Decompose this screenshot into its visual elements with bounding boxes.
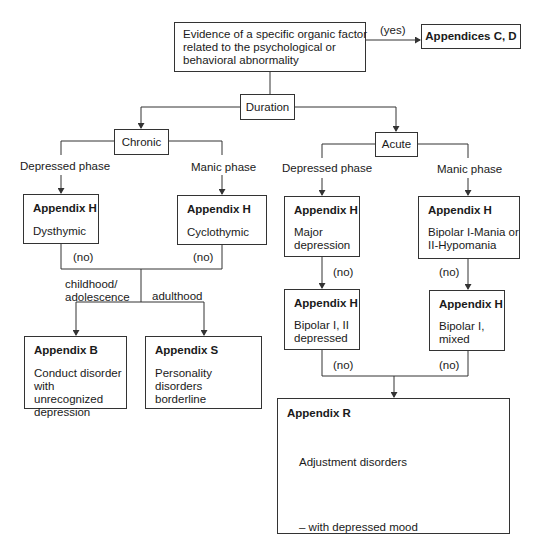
acute-box: Acute <box>375 132 418 157</box>
bipolar-depressed-title: Appendix H <box>294 297 359 310</box>
no-label-bipolar-mixed: (no) <box>439 359 459 372</box>
appendix-r-title: Appendix R <box>287 407 351 420</box>
appendix-b-box: Appendix B Conduct disorder with unrecog… <box>24 336 127 409</box>
acute-label: Acute <box>382 138 411 151</box>
organic-factor-line: related to the psychological or <box>183 41 367 54</box>
dysthymic-box: Appendix H Dysthymic <box>23 194 99 244</box>
bipolar-mania-title: Appendix H <box>428 204 519 217</box>
major-depression-box: Appendix H Major depression <box>284 196 360 257</box>
childhood-label-line: childhood/ <box>65 278 130 291</box>
yes-label: (yes) <box>380 24 406 37</box>
childhood-label-line: adolescence <box>65 291 130 304</box>
appendix-r-item: – with depressed mood <box>299 521 514 533</box>
appendices-cd-title: Appendices C, D <box>425 30 516 43</box>
appendix-b-line: with unrecognized <box>34 380 126 406</box>
bipolar-mixed-line: Bipolar I, <box>439 320 504 333</box>
appendix-s-line: Personality disorders <box>155 367 261 393</box>
dysthymic-body: Dysthymic <box>33 225 98 238</box>
bipolar-mixed-line: mixed <box>439 333 504 346</box>
acute-manic-phase-label: Manic phase <box>437 163 502 176</box>
no-label-major: (no) <box>333 266 353 279</box>
bipolar-mania-line: Bipolar I-Mania or <box>428 226 519 239</box>
chronic-label: Chronic <box>122 136 162 149</box>
chronic-manic-phase-label: Manic phase <box>191 161 256 174</box>
bipolar-mixed-title: Appendix H <box>439 298 504 311</box>
bipolar-mixed-box: Appendix H Bipolar I, mixed <box>429 290 505 351</box>
acute-depressed-phase-label: Depressed phase <box>282 162 372 175</box>
bipolar-depressed-box: Appendix H Bipolar I, II depressed <box>284 289 360 350</box>
chronic-depressed-phase-label: Depressed phase <box>20 160 110 173</box>
bipolar-depressed-line: Bipolar I, II <box>294 319 359 332</box>
appendix-r-items: – with depressed mood – with anxiety – w… <box>299 495 514 551</box>
organic-factor-line: behavioral abnormality <box>183 54 367 67</box>
appendix-s-line: borderline <box>155 393 261 406</box>
bipolar-mania-line: II-Hypomania <box>428 239 519 252</box>
cyclothymic-title: Appendix H <box>187 203 266 216</box>
appendix-b-title: Appendix B <box>34 344 126 357</box>
major-depression-line: depression <box>294 239 359 252</box>
no-label-bipolar-depressed: (no) <box>333 359 353 372</box>
chronic-box: Chronic <box>114 129 169 155</box>
no-label-cyclothymic: (no) <box>193 251 213 264</box>
organic-factor-box: Evidence of a specific organic factor re… <box>174 22 366 72</box>
appendix-r-box: Appendix R Adjustment disorders – with d… <box>277 398 510 534</box>
appendix-r-heading: Adjustment disorders <box>299 456 514 469</box>
cyclothymic-box: Appendix H Cyclothymic <box>177 195 267 245</box>
appendices-cd-box: Appendices C, D <box>421 24 521 49</box>
organic-factor-line: Evidence of a specific organic factor <box>183 28 367 41</box>
appendix-b-line: depression <box>34 406 126 419</box>
duration-label: Duration <box>246 101 289 114</box>
duration-box: Duration <box>240 94 295 120</box>
adulthood-label: adulthood <box>152 290 203 303</box>
bipolar-depressed-line: depressed <box>294 332 359 345</box>
bipolar-mania-box: Appendix H Bipolar I-Mania or II-Hypoman… <box>418 196 520 259</box>
appendix-s-box: Appendix S Personality disorders borderl… <box>145 336 262 409</box>
major-depression-title: Appendix H <box>294 204 359 217</box>
dysthymic-title: Appendix H <box>33 202 98 215</box>
no-label-mania: (no) <box>439 266 459 279</box>
major-depression-line: Major <box>294 226 359 239</box>
cyclothymic-body: Cyclothymic <box>187 226 266 239</box>
childhood-adolescence-label: childhood/ adolescence <box>65 278 130 304</box>
no-label-dysthymic: (no) <box>73 251 93 264</box>
appendix-s-title: Appendix S <box>155 344 261 357</box>
appendix-b-line: Conduct disorder <box>34 367 126 380</box>
